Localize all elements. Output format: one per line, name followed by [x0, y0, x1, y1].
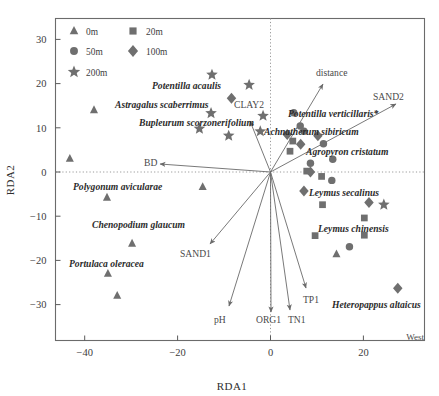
data-point-50m — [307, 159, 314, 166]
species-label: Polygonum avicularae — [73, 181, 163, 192]
data-point-20m — [318, 173, 325, 180]
plot-frame — [56, 19, 425, 341]
data-point-200m — [378, 199, 390, 210]
species-label: Astragalus scaberrimus — [114, 99, 209, 110]
env-vector-label-sand2: SAND2 — [373, 91, 404, 102]
data-point-20m — [287, 148, 294, 155]
y-tick-label: −30 — [30, 299, 46, 310]
data-point-100m — [296, 139, 305, 150]
legend-label-200m: 200m — [86, 68, 108, 78]
data-point-100m — [299, 185, 308, 196]
zero-reference-lines — [56, 19, 425, 341]
x-tick-label: 20 — [358, 347, 369, 358]
data-point-20m — [319, 201, 326, 208]
env-vector-ph — [229, 172, 271, 306]
y-axis-label: RDA2 — [4, 165, 16, 195]
data-point-200m — [206, 69, 218, 80]
legend-label-20m: 20m — [146, 27, 163, 37]
env-vector-tn1 — [271, 172, 291, 310]
species-label: Heteropappus altaicus — [331, 299, 421, 310]
legend: 0m20m50m100m200m — [68, 26, 168, 78]
species-label: Leymus chinensis — [317, 223, 389, 234]
data-point-200m — [223, 130, 235, 141]
env-vector-bd — [160, 164, 271, 172]
legend-label-50m: 50m — [86, 47, 103, 57]
legend-marker-100m — [128, 45, 138, 57]
env-vector-label-tp1: TP1 — [303, 294, 319, 305]
data-point-0m — [103, 193, 111, 201]
y-tick-label: −10 — [30, 211, 46, 222]
legend-marker-0m — [70, 26, 79, 34]
env-vector-label-tn1: TN1 — [288, 314, 306, 325]
data-point-200m — [257, 110, 269, 121]
data-point-0m — [113, 291, 121, 299]
species-label: Potentilla verticillaris* — [288, 108, 379, 119]
y-tick-label: 30 — [36, 34, 47, 45]
species-labels: Potentilla acaulisAstragalus scaberrimus… — [69, 80, 421, 310]
data-point-50m — [346, 243, 353, 250]
data-point-0m — [128, 239, 136, 247]
env-vector-sand1 — [210, 172, 271, 244]
species-label: Bupleurum scorzonerifolium — [138, 117, 254, 128]
env-vector-label-org1: ORG1 — [256, 314, 281, 325]
species-label: Portulaca oleracea — [69, 258, 144, 269]
x-tick-label: 0 — [268, 347, 273, 358]
species-label: Agropyron cristatum — [305, 146, 388, 157]
y-tick-label: 20 — [36, 78, 47, 89]
data-point-0m — [332, 249, 340, 257]
data-point-200m — [243, 79, 255, 90]
x-tick-label: −40 — [76, 347, 92, 358]
y-tick-label: −20 — [30, 255, 46, 266]
y-tick-label: 10 — [36, 123, 47, 134]
data-point-100m — [393, 283, 402, 294]
data-point-50m — [328, 177, 335, 184]
legend-marker-50m — [70, 47, 78, 55]
legend-marker-200m — [68, 65, 80, 77]
env-vector-label-bd: BD — [144, 157, 157, 168]
legend-label-0m: 0m — [86, 27, 99, 37]
species-label: Leymus secalinus — [308, 187, 379, 198]
data-point-0m — [90, 105, 98, 113]
species-label: Achnatherum sibiricum — [263, 126, 359, 137]
species-label: Chenopodium glaucum — [92, 219, 185, 230]
corner-annotation: West — [406, 332, 424, 342]
legend-marker-20m — [129, 27, 136, 34]
env-vector-label-sand1: SAND1 — [180, 248, 211, 259]
env-vector-label-ph: pH — [214, 314, 226, 325]
rda-plot-svg: −40−200203020100−10−20−30 distanceSAND2C… — [0, 0, 439, 396]
x-tick-label: −20 — [169, 347, 185, 358]
data-point-0m — [199, 182, 207, 190]
data-point-0m — [104, 269, 112, 277]
species-label: Potentilla acaulis — [152, 80, 221, 91]
legend-label-100m: 100m — [146, 47, 168, 57]
y-tick-label: 0 — [41, 167, 46, 178]
env-vector-label-clay2: CLAY2 — [234, 99, 264, 110]
rda-ordination-figure: −40−200203020100−10−20−30 distanceSAND2C… — [0, 0, 439, 396]
env-vector-org1 — [271, 172, 272, 312]
env-vector-label-distance: distance — [316, 67, 347, 78]
data-point-20m — [289, 138, 296, 145]
x-axis-label: RDA1 — [217, 380, 247, 392]
data-point-0m — [66, 154, 74, 162]
data-point-100m — [364, 197, 373, 208]
data-point-20m — [361, 215, 368, 222]
